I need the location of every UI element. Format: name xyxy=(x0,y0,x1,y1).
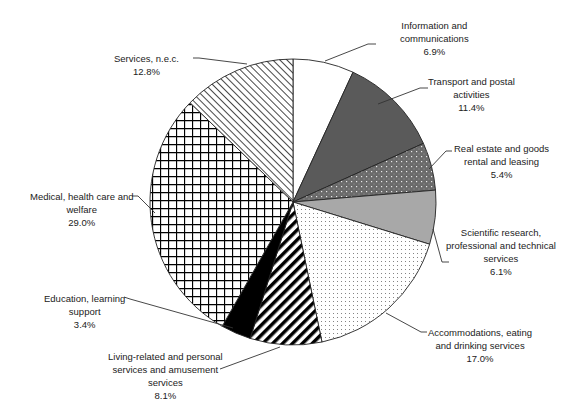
label-percent: 6.9% xyxy=(400,45,469,58)
label-percent: 12.8% xyxy=(114,65,179,78)
label-percent: 17.0% xyxy=(428,352,532,365)
label-text: Scientific research, xyxy=(446,226,556,239)
label-percent: 11.4% xyxy=(428,101,515,114)
label-text: professional and technical xyxy=(446,239,556,252)
label-text: and drinking services xyxy=(428,339,532,352)
leader-info xyxy=(325,44,376,61)
label-percent: 8.1% xyxy=(108,389,223,402)
label-text: services and amusement xyxy=(108,363,223,376)
label-real-estate: Real estate and goods rental and leasing… xyxy=(454,142,549,181)
label-living-related: Living-related and personal services and… xyxy=(108,350,223,402)
label-text: Information and xyxy=(400,19,469,32)
label-percent: 6.1% xyxy=(446,265,556,278)
label-medical: Medical, health care and welfare 29.0% xyxy=(30,190,134,229)
pie-slices xyxy=(150,59,436,345)
leader-accommodations xyxy=(386,313,427,332)
label-text: rental and leasing xyxy=(454,155,549,168)
label-text: Services, n.e.c. xyxy=(114,52,179,65)
label-text: activities xyxy=(428,88,515,101)
leader-living xyxy=(220,347,280,369)
label-text: communications xyxy=(400,32,469,45)
label-percent: 29.0% xyxy=(30,216,134,229)
label-services-nec: Services, n.e.c. 12.8% xyxy=(114,52,179,78)
label-percent: 5.4% xyxy=(454,168,549,181)
label-text: Accommodations, eating xyxy=(428,326,532,339)
label-transport-postal: Transport and postal activities 11.4% xyxy=(428,75,515,114)
label-text: services xyxy=(108,376,223,389)
label-scientific-research: Scientific research, professional and te… xyxy=(446,226,556,278)
label-text: Education, learning xyxy=(44,292,125,305)
label-accommodations: Accommodations, eating and drinking serv… xyxy=(428,326,532,365)
label-text: services xyxy=(446,252,556,265)
label-text: welfare xyxy=(30,203,134,216)
leader-realestate xyxy=(429,151,452,169)
label-text: Real estate and goods xyxy=(454,142,549,155)
label-education: Education, learning support 3.4% xyxy=(44,292,125,331)
label-information-communications: Information and communications 6.9% xyxy=(400,19,469,58)
label-text: support xyxy=(44,305,125,318)
label-text: Medical, health care and xyxy=(30,190,134,203)
label-text: Living-related and personal xyxy=(108,350,223,363)
label-percent: 3.4% xyxy=(44,318,125,331)
label-text: Transport and postal xyxy=(428,75,515,88)
leader-services xyxy=(193,58,247,64)
